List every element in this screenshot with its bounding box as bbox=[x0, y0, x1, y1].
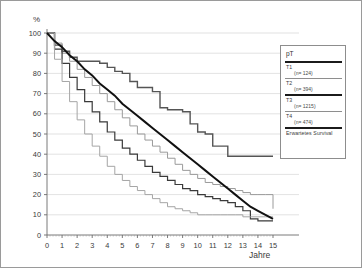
svg-text:10: 10 bbox=[194, 241, 202, 250]
svg-text:4: 4 bbox=[105, 241, 109, 250]
legend-n-t3: (n= 1215) bbox=[294, 103, 341, 109]
legend-entry-t4: T4 (n= 474) bbox=[285, 111, 341, 125]
legend-swatch-t2 bbox=[285, 78, 342, 79]
svg-text:12: 12 bbox=[224, 241, 232, 250]
svg-text:5: 5 bbox=[120, 241, 124, 250]
legend-label-expected: Erwartetes Survival bbox=[286, 130, 341, 136]
legend-entry-expected: Erwartetes Survival bbox=[285, 127, 341, 136]
legend-title: pT bbox=[286, 50, 341, 58]
svg-text:1: 1 bbox=[60, 241, 64, 250]
figure-frame: 0102030405060708090100 01234567891011121… bbox=[0, 0, 362, 268]
legend-swatch-t3 bbox=[285, 94, 342, 96]
svg-text:11: 11 bbox=[209, 241, 217, 250]
svg-text:30: 30 bbox=[33, 170, 41, 179]
svg-text:8: 8 bbox=[165, 241, 169, 250]
svg-text:80: 80 bbox=[33, 69, 41, 78]
legend-entry-t2: T2 (n= 394) bbox=[285, 78, 341, 92]
svg-text:50: 50 bbox=[33, 130, 41, 139]
y-tick-labels: 0102030405060708090100 bbox=[29, 29, 41, 240]
svg-text:100: 100 bbox=[29, 29, 41, 38]
svg-text:40: 40 bbox=[33, 150, 41, 159]
x-tick-labels: 0123456789101112131415 bbox=[45, 241, 277, 250]
survival-curves bbox=[47, 33, 273, 221]
legend-swatch-t4 bbox=[285, 111, 342, 112]
svg-text:0: 0 bbox=[37, 231, 41, 240]
svg-text:90: 90 bbox=[33, 49, 41, 58]
svg-text:13: 13 bbox=[239, 241, 247, 250]
x-axis-title: Jahre bbox=[249, 250, 270, 260]
svg-text:3: 3 bbox=[90, 241, 94, 250]
svg-text:7: 7 bbox=[150, 241, 154, 250]
legend-n-t1: (n= 124) bbox=[294, 70, 341, 76]
legend-entry-t1: T1 (n= 124) bbox=[285, 61, 341, 76]
legend-n-t4: (n= 474) bbox=[294, 119, 341, 125]
legend-entry-t3: T3 (n= 1215) bbox=[285, 94, 341, 109]
svg-text:0: 0 bbox=[45, 241, 49, 250]
svg-text:15: 15 bbox=[269, 241, 277, 250]
svg-text:20: 20 bbox=[33, 190, 41, 199]
svg-text:2: 2 bbox=[75, 241, 79, 250]
y-axis-title: % bbox=[33, 15, 40, 24]
svg-text:60: 60 bbox=[33, 109, 41, 118]
legend: pT T1 (n= 124) T2 (n= 394) T3 (n= 1215) … bbox=[280, 45, 346, 159]
legend-swatch-expected bbox=[285, 127, 342, 129]
svg-text:6: 6 bbox=[135, 241, 139, 250]
svg-text:9: 9 bbox=[181, 241, 185, 250]
svg-text:14: 14 bbox=[254, 241, 262, 250]
legend-n-t2: (n= 394) bbox=[294, 86, 341, 92]
svg-text:10: 10 bbox=[33, 210, 41, 219]
svg-text:70: 70 bbox=[33, 89, 41, 98]
legend-swatch-t1 bbox=[285, 61, 342, 63]
